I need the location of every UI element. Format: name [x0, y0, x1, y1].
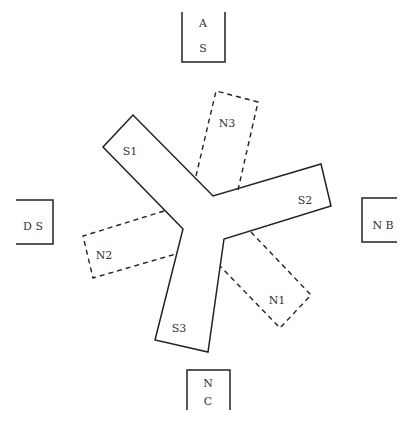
dashed-region-n3: N3 [196, 91, 258, 190]
region-n1-label: N1 [269, 294, 286, 307]
box-bottom-line2: C [204, 395, 212, 408]
box-left-ds: D S [16, 200, 53, 244]
region-n2-label: N2 [96, 249, 113, 262]
box-bottom-nc: N C [187, 370, 230, 410]
dashed-region-n1: N1 [220, 232, 311, 328]
box-right-nb: N B [362, 198, 397, 242]
box-top-line1: A [198, 17, 208, 30]
y-structure: S1 S2 S3 [103, 115, 331, 352]
dashed-region-n2: N2 [83, 211, 176, 278]
arm-s2-label: S2 [298, 194, 313, 207]
region-n3-label: N3 [219, 117, 236, 130]
diagram-canvas: A S D S N B N C N3 N2 N1 S1 S2 S3 [0, 0, 412, 425]
box-right-label: N B [372, 219, 393, 232]
arm-s1-label: S1 [123, 145, 138, 158]
box-top-as: A S [182, 12, 225, 62]
box-top-line2: S [199, 42, 207, 55]
box-left-label: D S [23, 220, 43, 233]
box-bottom-line1: N [203, 377, 213, 390]
arm-s3-label: S3 [172, 322, 187, 335]
